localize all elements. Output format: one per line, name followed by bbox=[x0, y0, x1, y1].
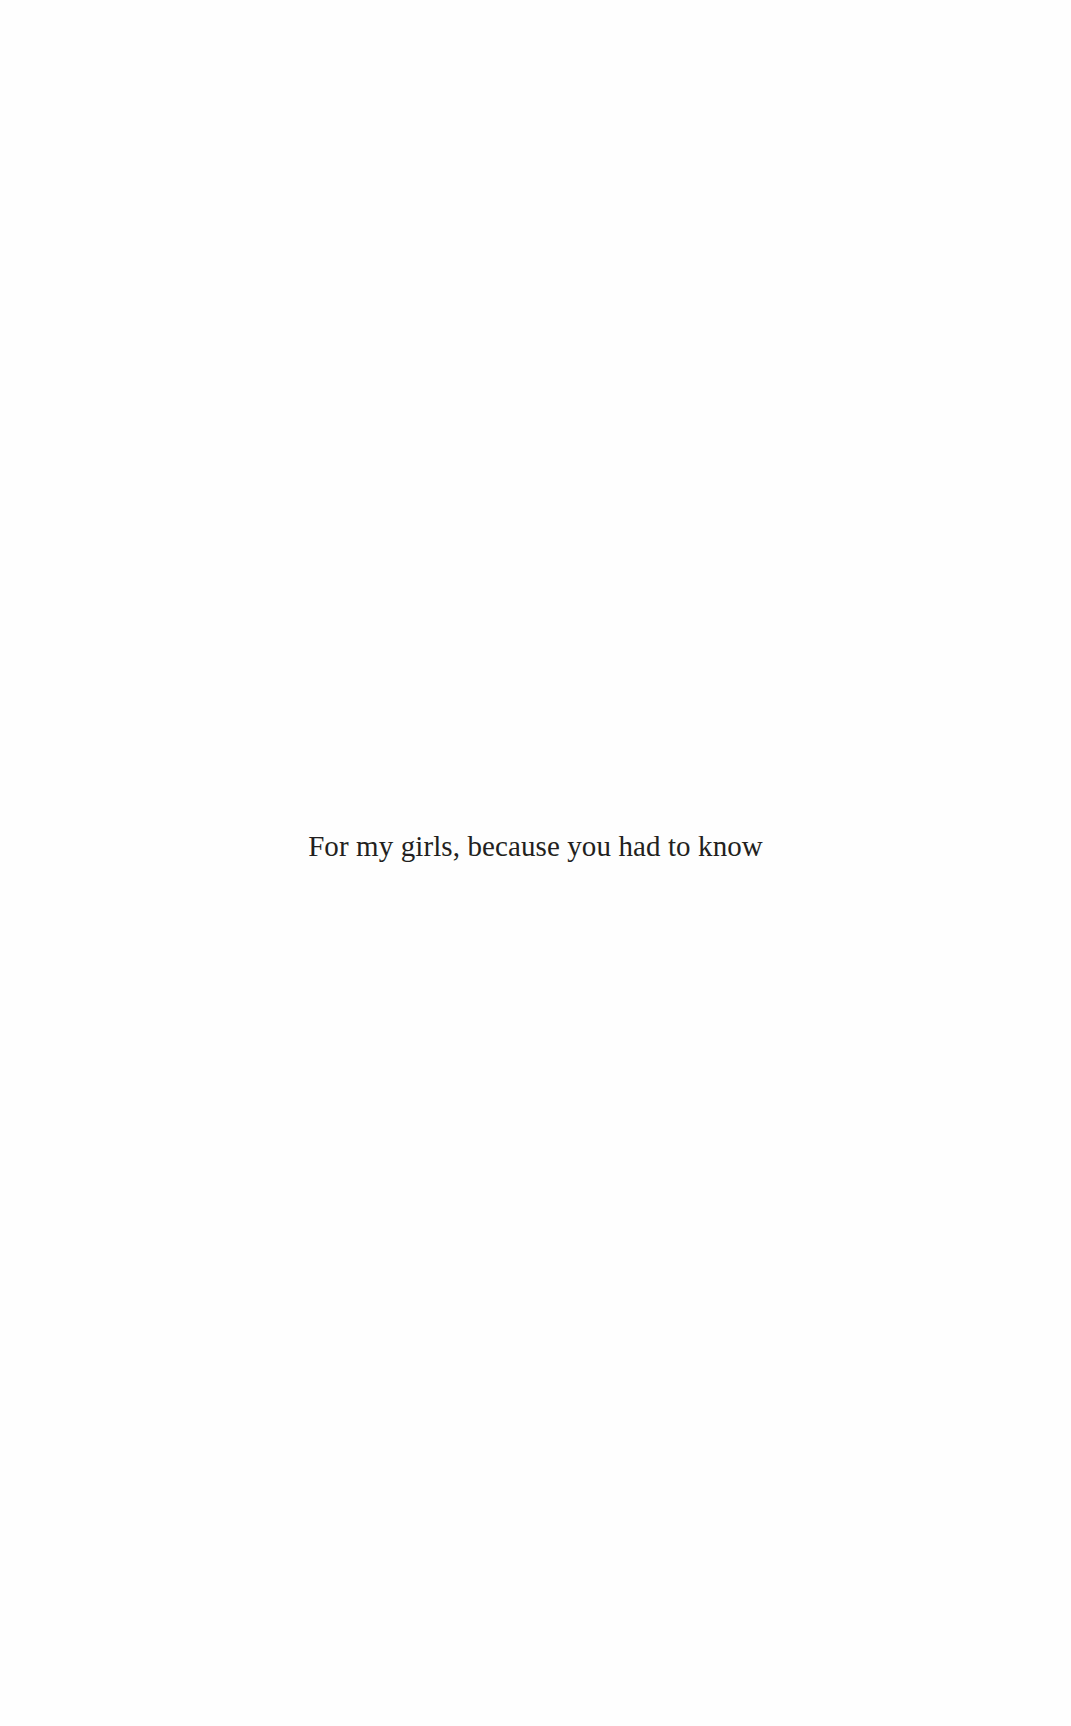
book-page: For my girls, because you had to know bbox=[0, 0, 1071, 1726]
dedication-text: For my girls, because you had to know bbox=[0, 827, 1071, 865]
